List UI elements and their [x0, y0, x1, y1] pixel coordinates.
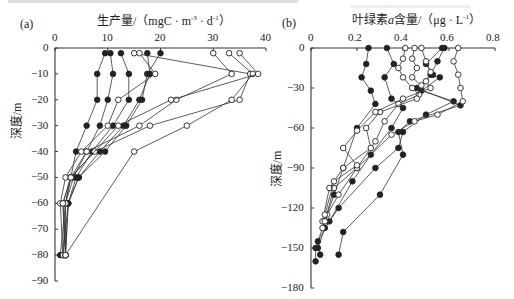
open-circle-marker: [455, 72, 461, 78]
open-circle-marker: [451, 59, 457, 65]
filled-circle-marker: [336, 252, 342, 258]
open-circle-marker: [455, 45, 461, 51]
open-circle-marker: [131, 50, 137, 56]
filled-circle-marker: [73, 149, 79, 155]
open-circle-marker: [354, 128, 360, 134]
filled-circle-marker: [110, 123, 116, 129]
panel-b-plot: [311, 45, 495, 288]
open-circle-marker: [79, 149, 85, 155]
filled-circle-marker: [373, 165, 379, 171]
open-circle-marker: [229, 71, 235, 77]
filled-circle-marker: [313, 259, 319, 265]
open-circle-marker: [400, 75, 406, 81]
open-circle-marker: [63, 252, 69, 258]
open-circle-marker: [414, 96, 420, 102]
open-circle-marker: [419, 83, 425, 89]
open-circle-marker: [137, 123, 143, 129]
open-circle-marker: [423, 79, 429, 85]
filled-circle-marker: [377, 192, 383, 198]
filled-circle-marker: [102, 149, 108, 155]
filled-circle-marker: [139, 97, 145, 103]
open-circle-marker: [229, 97, 235, 103]
filled-circle-marker: [158, 50, 164, 56]
filled-circle-marker: [437, 75, 443, 81]
filled-circle-marker: [384, 45, 390, 51]
chart-canvas: [0, 0, 514, 299]
panel-a-plot: [55, 48, 266, 281]
open-circle-marker: [105, 123, 111, 129]
open-circle-marker: [210, 50, 216, 56]
open-circle-marker: [373, 109, 379, 115]
filled-circle-marker: [439, 45, 445, 51]
filled-circle-marker: [94, 71, 100, 77]
filled-circle-marker: [97, 123, 103, 129]
filled-circle-marker: [389, 125, 395, 131]
filled-circle-marker: [336, 205, 342, 211]
open-circle-marker: [400, 56, 406, 62]
open-circle-marker: [331, 179, 337, 185]
open-circle-marker: [409, 85, 415, 91]
filled-circle-marker: [373, 101, 379, 107]
filled-circle-marker: [366, 45, 372, 51]
open-circle-marker: [63, 175, 69, 181]
open-circle-marker: [412, 119, 418, 125]
filled-circle-marker: [105, 97, 111, 103]
filled-circle-marker: [126, 97, 132, 103]
filled-circle-marker: [108, 50, 114, 56]
open-circle-marker: [131, 149, 137, 155]
filled-circle-marker: [123, 123, 129, 129]
open-circle-marker: [412, 45, 418, 51]
filled-circle-marker: [396, 145, 402, 151]
filled-circle-marker: [97, 149, 103, 155]
open-circle-marker: [382, 119, 388, 125]
open-circle-marker: [368, 145, 374, 151]
open-circle-marker: [116, 97, 122, 103]
filled-circle-marker: [76, 175, 82, 181]
open-circle-marker: [152, 71, 158, 77]
open-circle-marker: [363, 125, 369, 131]
open-circle-marker: [373, 139, 379, 145]
open-circle-marker: [428, 69, 434, 75]
filled-circle-marker: [110, 71, 116, 77]
filled-circle-marker: [315, 245, 321, 251]
filled-circle-marker: [145, 71, 151, 77]
open-circle-marker: [400, 96, 406, 102]
filled-circle-marker: [400, 105, 406, 111]
filled-circle-marker: [84, 123, 90, 129]
open-circle-marker: [409, 56, 415, 62]
filled-circle-marker: [382, 75, 388, 81]
filled-circle-marker: [317, 252, 323, 258]
filled-circle-marker: [126, 71, 132, 77]
open-circle-marker: [168, 97, 174, 103]
filled-circle-marker: [94, 97, 100, 103]
open-circle-marker: [435, 112, 441, 118]
open-circle-marker: [336, 192, 342, 198]
open-circle-marker: [396, 65, 402, 71]
open-circle-marker: [116, 123, 122, 129]
open-circle-marker: [184, 123, 190, 129]
series-line: [66, 53, 150, 255]
open-circle-marker: [237, 50, 243, 56]
filled-circle-marker: [400, 152, 406, 158]
filled-circle-marker: [359, 75, 365, 81]
open-circle-marker: [423, 59, 429, 65]
open-circle-marker: [147, 123, 153, 129]
open-circle-marker: [322, 212, 328, 218]
open-circle-marker: [409, 75, 415, 81]
open-circle-marker: [60, 201, 66, 207]
filled-circle-marker: [350, 179, 356, 185]
open-circle-marker: [428, 85, 434, 91]
open-circle-marker: [84, 149, 90, 155]
filled-circle-marker: [118, 50, 124, 56]
filled-circle-marker: [391, 61, 397, 67]
open-circle-marker: [255, 71, 261, 77]
filled-circle-marker: [363, 61, 369, 67]
open-circle-marker: [460, 99, 466, 105]
open-circle-marker: [320, 225, 326, 231]
open-circle-marker: [237, 97, 243, 103]
filled-circle-marker: [368, 88, 374, 94]
open-circle-marker: [389, 132, 395, 138]
open-circle-marker: [419, 45, 425, 51]
filled-circle-marker: [340, 229, 346, 235]
filled-circle-marker: [102, 50, 108, 56]
